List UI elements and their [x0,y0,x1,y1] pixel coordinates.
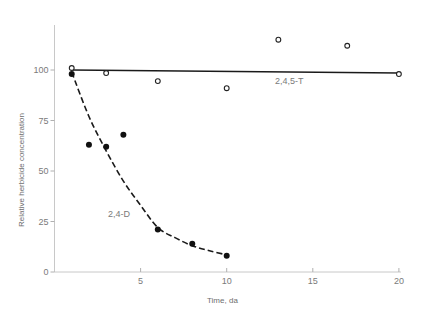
y-tick-label: 100 [33,65,48,75]
x-tick-label: 15 [308,276,318,286]
x-axis-title: Time, da [207,296,238,305]
filled-circle-marker [103,144,109,150]
filled-circle-marker [86,142,92,148]
open-circle-marker [155,79,160,84]
series-label-2,4-D: 2,4-D [108,209,131,219]
filled-circle-marker [224,253,230,259]
x-tick-label: 5 [138,276,143,286]
fit-line-2,4-D [72,72,227,255]
series-label-2,4,5-T: 2,4,5-T [275,76,304,86]
filled-circle-marker [155,227,161,233]
open-circle-marker [276,37,281,42]
fit-lines [72,70,399,255]
y-tick-label: 75 [38,116,48,126]
y-tick-label: 50 [38,166,48,176]
fit-line-2,4,5-T [72,70,399,73]
filled-circle-marker [69,71,75,77]
y-tick-label: 25 [38,217,48,227]
open-circle-marker [397,72,402,77]
open-circle-marker [69,66,74,71]
axes: 02550751005101520 [33,25,403,286]
y-tick-label: 0 [43,267,48,277]
x-tick-label: 10 [222,276,232,286]
x-tick-label: 20 [394,276,404,286]
y-axis-title: Relative herbicide concentration [17,113,26,227]
open-circle-marker [345,43,350,48]
open-circle-marker [104,71,109,76]
chart: 02550751005101520 2,4,5-T2,4-D Time, da … [0,0,425,322]
open-circle-marker [224,86,229,91]
filled-circle-marker [189,241,195,247]
filled-circle-marker [120,132,126,138]
series-labels: 2,4,5-T2,4-D [108,76,304,219]
